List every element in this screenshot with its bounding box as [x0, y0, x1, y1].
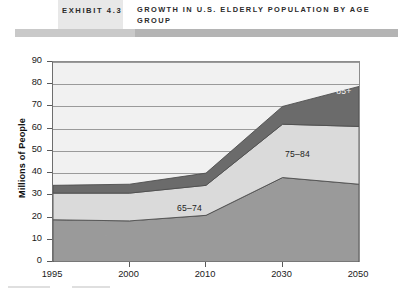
y-tick-label-80: 80	[20, 77, 42, 87]
stacked-area-series	[53, 62, 359, 262]
y-tick-label-90: 90	[20, 55, 42, 65]
y-tick-label-70: 70	[20, 99, 42, 109]
y-axis-title: Millions of People	[17, 98, 27, 218]
series-label-65-74: 65–74	[177, 203, 202, 213]
header-rule-light	[15, 29, 135, 37]
y-tick-label-40: 40	[20, 166, 42, 176]
exhibit-number: EXHIBIT 4.3	[62, 6, 122, 15]
y-tick-label-10: 10	[20, 233, 42, 243]
exhibit-header: EXHIBIT 4.3 GROWTH IN U.S. ELDERLY POPUL…	[0, 0, 405, 29]
page-smudge-left	[8, 286, 50, 288]
page-smudge-right	[72, 286, 110, 288]
exhibit-title: GROWTH IN U.S. ELDERLY POPULATION BY AGE…	[137, 5, 397, 26]
x-tick-label-2050: 2050	[336, 269, 380, 279]
print-speck	[105, 234, 107, 237]
x-tick-label-2000: 2000	[107, 269, 151, 279]
y-tick-label-30: 30	[20, 188, 42, 198]
chart-container: Millions of People 0102030405060708090 1…	[0, 48, 405, 295]
x-tick-label-2010: 2010	[183, 269, 227, 279]
y-tick-label-50: 50	[20, 144, 42, 154]
series-label-85-plus: 85+	[336, 86, 351, 96]
y-tick-label-0: 0	[20, 255, 42, 265]
y-tick-label-60: 60	[20, 122, 42, 132]
x-tick-label-1995: 1995	[30, 269, 74, 279]
x-tick-label-2030: 2030	[260, 269, 304, 279]
series-label-75-84: 75–84	[285, 149, 310, 159]
plot-area	[52, 61, 360, 262]
y-tick-label-20: 20	[20, 211, 42, 221]
